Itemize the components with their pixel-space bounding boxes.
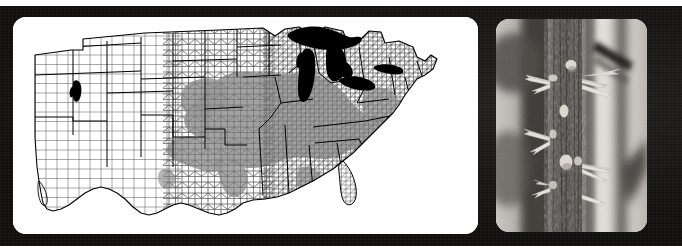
distribution-map-image (13, 17, 478, 234)
distribution-map-panel: Black and white county-level outline map… (13, 17, 478, 234)
thorny-stem-photo-image (496, 19, 647, 232)
figure-plate: Black and white county-level outline map… (0, 0, 682, 251)
thorny-stem-photo-panel: Black and white close-up photograph of a… (496, 19, 647, 232)
